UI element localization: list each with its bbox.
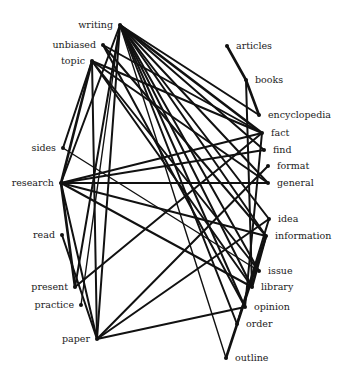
node-dot (262, 148, 266, 152)
node-label: issue (268, 265, 293, 276)
node-dot (257, 113, 261, 117)
node-label: read (33, 229, 55, 240)
node-label: unbiased (52, 39, 96, 50)
node-dot (61, 146, 65, 150)
node-label: general (277, 177, 314, 188)
node-encyclopedia: encyclopedia (257, 109, 331, 120)
node-label: information (275, 230, 331, 241)
edge-topic-issue (92, 61, 259, 271)
node-label: fact (271, 127, 290, 138)
node-present: present (31, 281, 77, 292)
node-dot (225, 44, 229, 48)
node-dot (257, 269, 261, 273)
node-dot (243, 305, 247, 309)
node-writing: writing (78, 19, 122, 30)
node-label: library (261, 281, 294, 292)
node-label: paper (62, 333, 90, 344)
node-dot (101, 43, 105, 47)
node-opinion: opinion (243, 301, 290, 312)
node-outline: outline (224, 352, 269, 363)
node-articles: articles (225, 40, 272, 51)
node-dot (250, 285, 254, 289)
node-label: present (31, 281, 68, 292)
node-read: read (33, 229, 64, 240)
node-dot (244, 78, 248, 82)
node-label: encyclopedia (268, 109, 331, 120)
node-label: topic (61, 55, 85, 66)
node-label: books (255, 74, 283, 85)
edges-layer (61, 25, 269, 358)
node-label: idea (278, 213, 299, 224)
node-label: practice (35, 299, 75, 310)
node-label: articles (236, 40, 272, 51)
node-books: books (244, 74, 283, 85)
node-library: library (250, 281, 294, 292)
edge-research-library (61, 183, 252, 287)
edge-topic-sides (63, 61, 92, 148)
node-label: order (246, 318, 273, 329)
node-label: opinion (254, 301, 290, 312)
node-dot (118, 23, 122, 27)
node-label: find (273, 144, 292, 155)
edge-writing-opinion (120, 25, 245, 307)
node-general: general (266, 177, 314, 188)
node-research: research (12, 177, 63, 188)
edge-topic-research (61, 61, 92, 183)
node-label: writing (78, 19, 113, 30)
edge-writing-outline (120, 25, 226, 358)
node-practice: practice (35, 299, 83, 310)
node-label: outline (235, 352, 269, 363)
node-format: format (266, 160, 309, 171)
node-label: research (12, 177, 54, 188)
node-dot (260, 131, 264, 135)
node-dot (59, 181, 63, 185)
node-issue: issue (257, 265, 293, 276)
node-topic: topic (61, 55, 94, 66)
node-dot (95, 337, 99, 341)
node-dot (73, 285, 77, 289)
node-dot (60, 233, 64, 237)
node-dot (266, 181, 270, 185)
node-fact: fact (260, 127, 290, 138)
node-dot (224, 356, 228, 360)
node-dot (235, 322, 239, 326)
node-label: sides (32, 142, 57, 153)
node-information: information (264, 230, 331, 241)
edge-articles-books (227, 46, 246, 80)
node-dot (267, 217, 271, 221)
node-dot (90, 59, 94, 63)
node-dot (264, 234, 268, 238)
node-sides: sides (32, 142, 66, 153)
node-dot (266, 164, 270, 168)
edge-writing-issue (120, 25, 259, 271)
node-paper: paper (62, 333, 99, 344)
node-dot (79, 303, 83, 307)
edge-research-paper (61, 183, 97, 339)
node-find: find (262, 144, 292, 155)
node-order: order (235, 318, 273, 329)
node-label: format (277, 160, 309, 171)
node-idea: idea (267, 213, 299, 224)
node-unbiased: unbiased (52, 39, 105, 50)
association-graph: writingunbiasedtopicsidesresearchreadpre… (0, 0, 338, 380)
